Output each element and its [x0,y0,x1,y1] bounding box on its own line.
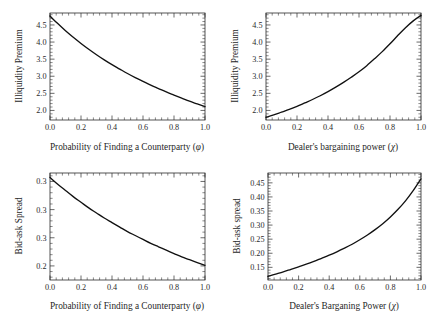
x-tick-label: 0.6 [354,123,364,132]
data-curve [268,179,421,276]
x-axis-title-close: ) [201,301,204,312]
y-tick-label: 2.0 [252,106,262,115]
plot-frame-bottom-right [268,173,421,280]
x-axis-title-close: ) [395,142,398,153]
y-tick-label: 3.0 [36,72,46,81]
plot-frame-top-right [266,13,421,120]
x-axis-title-text: Probability of Finding a Counterparty ( [50,301,196,312]
panel-illiquidity-premium-vs-phi: 0.00.20.40.60.81.02.02.53.03.54.04.5 Ill… [0,0,216,160]
y-tick-label: 0.30 [250,221,264,230]
ticklabels-bottom-right: 0.00.20.40.60.81.00.150.200.250.300.350.… [250,179,426,292]
y-tick-label: 2.0 [36,106,46,115]
ticks-top-left [50,13,205,120]
x-tick-label: 0.4 [324,283,334,292]
panel-bid-ask-spread-vs-phi: 0.00.20.40.60.81.00.20.30.30.3 Bid-ask S… [0,161,216,321]
x-tick-label: 0.8 [385,123,395,132]
x-tick-label: 0.6 [138,123,148,132]
y-tick-label: 4.5 [36,21,46,30]
y-tick-label: 3.0 [252,72,262,81]
y-tick-label: 3.5 [252,55,262,64]
plot-bottom-left: 0.00.20.40.60.81.00.20.30.30.3 Bid-ask S… [0,161,216,321]
x-axis-title-close: ) [201,142,204,153]
x-tick-label: 0.0 [261,123,271,132]
y-tick-label: 4.5 [252,21,262,30]
x-axis-title: Dealer's bargaining power (χ) [288,142,398,153]
y-tick-label: 0.2 [36,262,46,271]
ticklabels-top-right: 0.00.20.40.60.81.02.02.53.03.54.04.5 [252,21,426,132]
plot-frame-bottom-left [50,173,205,280]
x-tick-label: 0.8 [169,283,179,292]
y-axis-title: Bid-ask Spread [14,197,24,254]
x-tick-label: 1.0 [416,123,426,132]
data-curve [50,178,205,266]
x-tick-label: 0.8 [169,123,179,132]
ticklabels-top-left: 0.00.20.40.60.81.02.02.53.03.54.04.5 [36,21,210,132]
x-tick-label: 0.2 [292,123,302,132]
x-tick-label: 0.6 [138,283,148,292]
plot-top-left: 0.00.20.40.60.81.02.02.53.03.54.04.5 Ill… [0,0,216,161]
x-tick-label: 0.6 [355,283,365,292]
y-tick-label: 0.3 [36,177,46,186]
x-tick-label: 1.0 [416,283,426,292]
x-tick-label: 0.2 [293,283,303,292]
y-tick-label: 4.0 [36,38,46,47]
x-tick-label: 0.4 [323,123,333,132]
y-tick-label: 0.35 [250,207,264,216]
ticklabels-bottom-left: 0.00.20.40.60.81.00.20.30.30.3 [36,177,210,291]
x-tick-label: 0.4 [107,283,117,292]
y-tick-label: 0.45 [250,179,264,188]
four-panel-figure: 0.00.20.40.60.81.02.02.53.03.54.04.5 Ill… [0,0,432,321]
x-tick-label: 1.0 [200,123,210,132]
ticks-bottom-right [268,173,421,280]
x-tick-label: 0.2 [76,283,86,292]
y-tick-label: 3.5 [36,55,46,64]
ticks-bottom-left [50,173,205,280]
y-tick-label: 0.20 [250,249,264,258]
panel-illiquidity-premium-vs-chi: 0.00.20.40.60.81.02.02.53.03.54.04.5 Ill… [216,0,432,160]
x-axis-title: Probability of Finding a Counterparty (φ… [50,301,204,312]
y-tick-label: 0.40 [250,193,264,202]
x-tick-label: 0.2 [76,123,86,132]
y-tick-label: 0.15 [250,263,264,272]
data-curve [50,16,205,107]
x-axis-title: Dealer's Barganing Power (χ) [289,301,399,312]
x-tick-label: 0.4 [107,123,117,132]
y-tick-label: 2.5 [252,89,262,98]
x-axis-title-close: ) [396,301,399,312]
y-tick-label: 0.3 [36,206,46,215]
x-tick-label: 1.0 [200,283,210,292]
x-tick-label: 0.8 [385,283,395,292]
y-tick-label: 0.25 [250,235,264,244]
ticks-top-right [266,13,421,120]
x-axis-title-text: Dealer's Barganing Power ( [289,301,391,312]
x-axis-title-text: Probability of Finding a Counterparty ( [50,142,196,153]
data-curve [266,15,421,117]
y-tick-label: 4.0 [252,38,262,47]
x-tick-label: 0.0 [263,283,273,292]
x-axis-title-text: Dealer's bargaining power ( [288,142,391,153]
plot-bottom-right: 0.00.20.40.60.81.00.150.200.250.300.350.… [216,161,432,321]
plot-frame-top-left [50,13,205,120]
plot-top-right: 0.00.20.40.60.81.02.02.53.03.54.04.5 Ill… [216,0,432,161]
y-axis-title: Illiquidity Premium [230,28,240,102]
y-axis-title: Illiquidity Premium [14,28,24,102]
y-tick-label: 0.3 [36,234,46,243]
y-axis-title: Bid-ask spread [232,198,242,254]
panel-bid-ask-spread-vs-chi: 0.00.20.40.60.81.00.150.200.250.300.350.… [216,161,432,321]
y-tick-label: 2.5 [36,89,46,98]
x-axis-title: Probability of Finding a Counterparty (φ… [50,142,204,153]
x-tick-label: 0.0 [45,283,55,292]
x-tick-label: 0.0 [45,123,55,132]
